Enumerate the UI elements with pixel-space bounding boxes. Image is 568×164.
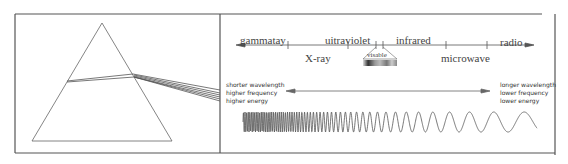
label-xray: X-ray [305,52,331,64]
caption-line: longer wavelength [500,81,556,89]
label-microwave: microwave [441,52,490,64]
direction-arrow [286,89,490,93]
label-infrared: infrared [396,34,431,46]
caption-line: higher energy [226,97,284,105]
caption-line: higher frequency [226,89,284,97]
label-ultraviolet: uitraviolet [325,34,370,46]
right-caption: longer wavelength lower frequency lower … [500,81,556,105]
label-gamma: gammatay [240,34,286,46]
caption-line: shorter wavelength [226,81,284,89]
caption-line: lower frequency [500,89,556,97]
light-beam [67,74,220,101]
label-visible: visable [367,51,387,59]
caption-line: lower energy [500,97,556,105]
wave-icon [243,112,537,132]
left-caption: shorter wavelength higher frequency high… [226,81,284,105]
label-radio: radio [500,36,523,48]
